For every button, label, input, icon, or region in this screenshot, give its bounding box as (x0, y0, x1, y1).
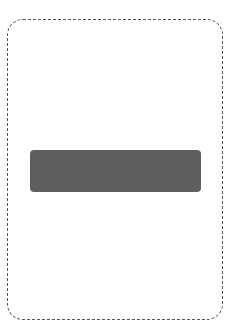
placeholder-bar (30, 150, 201, 192)
